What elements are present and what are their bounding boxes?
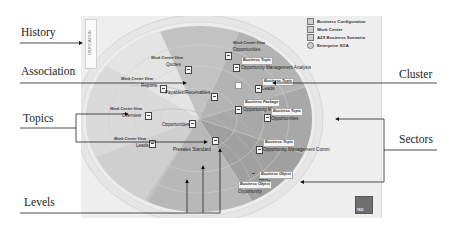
- annotation-topics: Topics: [23, 112, 54, 124]
- logo: ISD: [355, 196, 373, 214]
- document-icon[interactable]: [185, 66, 192, 74]
- legend: Business Configuration Work Center A2X B…: [307, 17, 381, 49]
- annotation-levels: Levels: [24, 196, 55, 208]
- document-icon[interactable]: [225, 52, 232, 60]
- visualization-canvas[interactable]: UNIFICATION Business Configuration Work …: [81, 16, 382, 218]
- node-opportunities-wcv[interactable]: Work Center View Opportunities: [233, 41, 265, 52]
- document-icon[interactable]: [211, 93, 218, 101]
- node-leads-wcv[interactable]: Work Center View Leads: [114, 137, 149, 148]
- node-opportunities-topic[interactable]: Business Topic Opportunities: [271, 108, 303, 121]
- annotation-cluster: Cluster: [399, 68, 432, 80]
- package-icon[interactable]: [235, 106, 242, 114]
- business-object-icon[interactable]: [251, 171, 256, 177]
- node-quotes[interactable]: Work Center View Quotes: [151, 56, 183, 67]
- document-icon[interactable]: [233, 64, 240, 72]
- cluster-node-icon[interactable]: [212, 137, 219, 145]
- document-icon[interactable]: [264, 114, 271, 122]
- node-payables-receivables[interactable]: Payables/Receivables: [165, 90, 210, 96]
- node-opportunity-management-comm[interactable]: Business Topic Opportunity Management Co…: [263, 139, 330, 152]
- node-overview[interactable]: Work Center View Overview: [110, 107, 142, 118]
- history-label: UNIFICATION: [87, 30, 92, 55]
- enterprise-soa-icon: [307, 42, 314, 49]
- work-center-icon: [307, 26, 314, 33]
- node-opportunities[interactable]: Opportunities: [162, 122, 189, 128]
- legend-item-enterprise-soa[interactable]: Enterprise SOA: [307, 41, 381, 49]
- annotation-association: Association: [21, 65, 75, 77]
- legend-item-business-configuration[interactable]: Business Configuration: [307, 17, 381, 25]
- document-icon[interactable]: [189, 120, 196, 128]
- document-icon[interactable]: [145, 112, 152, 120]
- annotation-sectors: Sectors: [399, 133, 433, 145]
- a2x-scenario-icon: [307, 34, 314, 41]
- cluster-marker[interactable]: [235, 82, 242, 89]
- node-reports[interactable]: Work Center View Reports: [121, 77, 157, 88]
- node-presales-standard[interactable]: Presales Standard: [173, 147, 211, 153]
- document-icon[interactable]: [255, 85, 262, 93]
- document-icon[interactable]: [256, 146, 263, 154]
- business-configuration-icon: [307, 18, 314, 25]
- history-panel[interactable]: UNIFICATION: [85, 19, 97, 69]
- node-opportunity-object[interactable]: Business Object Opportunity: [238, 181, 272, 194]
- node-leads-topic[interactable]: Business Topic Leads: [262, 78, 294, 91]
- node-opportunity-management-analysis[interactable]: Business Topic Opportunity Management An…: [241, 57, 311, 70]
- annotation-history: History: [21, 26, 56, 38]
- legend-item-a2x-business-scenario[interactable]: A2X Business Scenario: [307, 33, 381, 41]
- legend-item-work-center[interactable]: Work Center: [307, 25, 381, 33]
- document-icon[interactable]: [149, 140, 156, 148]
